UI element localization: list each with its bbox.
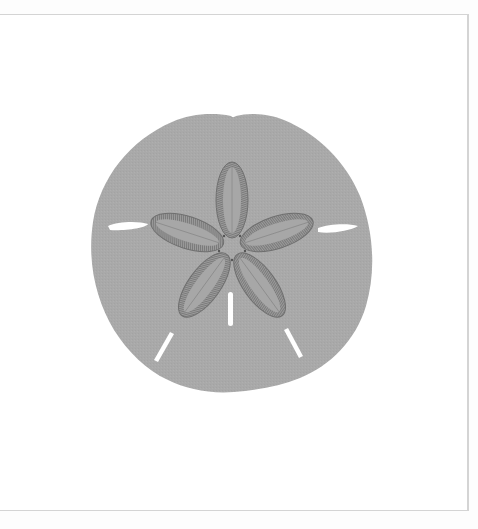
sand-dollar-body	[91, 114, 372, 393]
sand-dollar-illustration	[0, 0, 478, 529]
lunule-bottom	[228, 292, 233, 326]
petal-top	[216, 162, 248, 238]
